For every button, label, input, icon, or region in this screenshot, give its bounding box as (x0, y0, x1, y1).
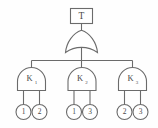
basic-event-label-4: 3 (88, 107, 92, 116)
basic-event-label-5: 2 (123, 107, 127, 116)
fault-tree-canvas: T K 1 1 2 K 2 1 3 (0, 0, 158, 128)
basic-event-label-2: 2 (38, 107, 42, 116)
and-gate-k3-label: K (127, 73, 134, 83)
top-event-label: T (79, 11, 85, 21)
basic-event-label-6: 3 (139, 107, 143, 116)
basic-event-label-3: 1 (72, 107, 76, 116)
basic-event-label-1: 1 (22, 107, 26, 116)
and-gate-k1-label: K (26, 73, 33, 83)
and-gate-k2-label: K (77, 73, 84, 83)
fault-tree-diagram: T K 1 1 2 K 2 1 3 (0, 0, 158, 128)
